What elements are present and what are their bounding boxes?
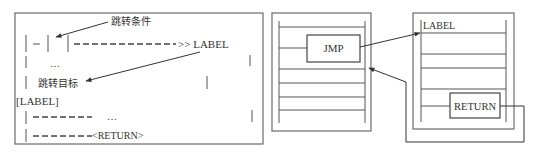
return-label: RETURN — [454, 101, 496, 112]
label-marker: [LABEL] — [16, 95, 59, 107]
middle-panel-program: JMP — [272, 13, 371, 131]
label-entry-text: LABEL — [423, 20, 455, 31]
jump-condition-label: 跳转条件 — [111, 15, 151, 27]
program-flow-diagram: 跳转条件 >> LABEL … 跳转目标 [LABEL] … <RETURN> — [0, 0, 533, 155]
row2-ellipsis: … — [50, 58, 60, 69]
return-path-arrow — [369, 68, 524, 142]
jmp-label: JMP — [323, 42, 343, 54]
jump-condition-arrow — [56, 22, 108, 37]
jump-target-arrow — [86, 52, 200, 81]
jump-to-label-arrow — [360, 33, 420, 47]
row5-ellipsis: … — [107, 111, 117, 122]
jump-label-text: >> LABEL — [178, 38, 229, 50]
jump-target-label: 跳转目标 — [38, 77, 78, 89]
middle-panel-frame — [272, 13, 371, 131]
return-marker: <RETURN> — [92, 130, 144, 141]
right-panel-subroutine: LABEL RETURN — [413, 13, 514, 129]
left-panel-code-listing: 跳转条件 >> LABEL … 跳转目标 [LABEL] … <RETURN> — [15, 13, 263, 144]
